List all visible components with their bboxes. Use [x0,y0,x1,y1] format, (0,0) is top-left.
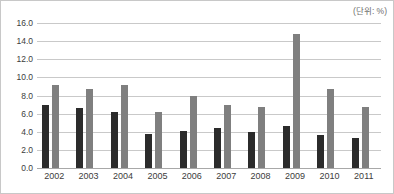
bar-group [347,23,381,168]
x-tick-label: 2009 [285,171,305,181]
x-tick-label: 2003 [79,171,99,181]
x-tick-label: 2007 [216,171,236,181]
bar-group [312,23,346,168]
bar [111,112,118,168]
y-tick-label: 16.0 [3,18,33,28]
bar [42,105,49,168]
bar-group [37,23,71,168]
bar-group [106,23,140,168]
bar-group [278,23,312,168]
bar [121,85,128,168]
bar [258,107,265,168]
bar [352,138,359,168]
bar-group [71,23,105,168]
y-tick-label: 12.0 [3,54,33,64]
y-tick-label: 10.0 [3,72,33,82]
bar [224,105,231,168]
bar [86,89,93,168]
y-tick-label: 6.0 [3,109,33,119]
y-axis: 16.014.012.010.08.06.04.02.00.0 [1,23,33,168]
bar [362,107,369,168]
bar-chart: (단위: %) 16.014.012.010.08.06.04.02.00.0 … [0,0,394,194]
x-tick-label: 2010 [319,171,339,181]
x-tick-label: 2005 [147,171,167,181]
bar [214,128,221,168]
bar-group [243,23,277,168]
x-tick-label: 2002 [44,171,64,181]
x-tick-label: 2008 [251,171,271,181]
bar [145,134,152,168]
bar [283,126,290,168]
x-tick-label: 2006 [182,171,202,181]
bar [180,131,187,168]
x-tick-label: 2004 [113,171,133,181]
bar-group [209,23,243,168]
bar-group [175,23,209,168]
unit-annotation: (단위: %) [353,4,387,16]
bar [52,85,59,168]
y-tick-label: 0.0 [3,163,33,173]
x-tick-label: 2011 [354,171,373,181]
gridline [37,168,381,169]
bar [155,112,162,168]
x-axis: 2002200320042005200620072008200920102011 [37,171,381,189]
bars-layer [37,23,381,168]
y-tick-label: 4.0 [3,127,33,137]
bar [327,89,334,168]
bar [317,135,324,168]
bar [76,108,83,168]
y-tick-label: 2.0 [3,145,33,155]
bar [190,96,197,168]
y-tick-label: 8.0 [3,91,33,101]
bar [248,132,255,168]
y-tick-label: 14.0 [3,36,33,46]
bar [293,34,300,168]
bar-group [140,23,174,168]
